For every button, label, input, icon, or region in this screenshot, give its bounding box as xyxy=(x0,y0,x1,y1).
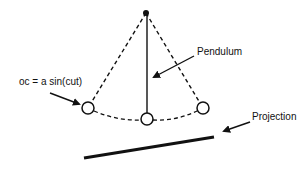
pivot-point-icon xyxy=(143,10,149,16)
projection-arrow-icon xyxy=(224,122,250,131)
equation-label: oc = a sin(cut) xyxy=(19,77,82,87)
bob-left-icon xyxy=(82,102,94,114)
swing-arc xyxy=(94,111,141,120)
left-dashed-string xyxy=(91,13,146,103)
pendulum-diagram: Pendulum oc = a sin(cut) Projection xyxy=(0,0,308,175)
bob-right-icon xyxy=(197,102,209,114)
projection-label: Projection xyxy=(252,112,296,122)
right-dashed-string xyxy=(146,13,200,103)
pendulum-arrow-icon xyxy=(154,56,194,77)
pendulum-label: Pendulum xyxy=(197,47,242,57)
swing-arc-right xyxy=(153,111,197,120)
diagram-drawing xyxy=(0,0,308,175)
projection-line xyxy=(84,137,214,158)
equation-arrow-icon xyxy=(50,93,79,104)
bob-center-icon xyxy=(141,113,153,125)
